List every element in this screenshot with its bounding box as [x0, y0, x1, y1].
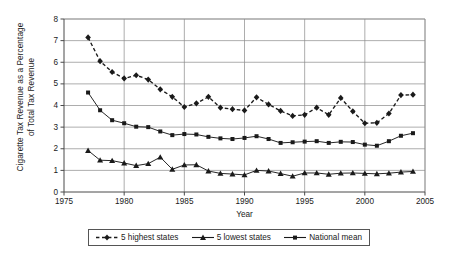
data-point-diamond	[109, 69, 115, 75]
data-point-square	[194, 132, 198, 136]
data-point-diamond	[350, 108, 356, 114]
data-point-square	[158, 129, 162, 133]
data-point-diamond	[230, 106, 236, 112]
data-point-triangle	[157, 154, 163, 159]
legend-label-highest: 5 highest states	[121, 233, 178, 242]
legend-item-national-mean: National mean	[284, 233, 362, 242]
y-tick-label: 0	[42, 188, 58, 197]
data-point-square	[279, 141, 283, 145]
x-tick-label: 2000	[345, 197, 385, 206]
series-national-mean	[86, 91, 415, 148]
data-point-square	[243, 136, 247, 140]
data-point-square	[351, 140, 355, 144]
data-point-diamond	[410, 92, 416, 98]
data-point-square	[146, 125, 150, 129]
data-point-square	[267, 137, 271, 141]
data-point-square	[387, 139, 391, 143]
data-point-diamond	[302, 112, 308, 118]
data-point-square	[363, 143, 367, 147]
data-point-square	[86, 91, 90, 95]
data-point-diamond	[121, 75, 127, 81]
data-point-square	[182, 132, 186, 136]
data-point-square	[399, 134, 403, 138]
data-point-diamond	[97, 58, 103, 64]
data-point-square	[303, 140, 307, 144]
x-tick-label: 1975	[44, 197, 84, 206]
data-point-diamond	[278, 108, 284, 114]
x-tick-label: 2005	[405, 197, 445, 206]
chart-legend: 5 highest states 5 lowest states Nationa…	[88, 229, 370, 246]
y-axis-title: Cigarette Tax Revenue as a Percentage of…	[15, 0, 37, 195]
data-point-diamond	[338, 95, 344, 101]
data-point-diamond	[157, 86, 163, 92]
data-point-diamond	[242, 107, 248, 113]
data-point-square	[218, 136, 222, 140]
data-point-square	[411, 131, 415, 135]
y-tick-label: 3	[42, 123, 58, 132]
data-point-square	[339, 140, 343, 144]
data-point-diamond	[85, 34, 91, 40]
y-tick-label: 5	[42, 79, 58, 88]
data-point-square	[255, 134, 259, 138]
series-line	[88, 37, 413, 123]
legend-item-lowest: 5 lowest states	[192, 233, 271, 242]
data-point-diamond	[182, 104, 188, 110]
x-tick-label: 1990	[225, 197, 265, 206]
data-point-diamond	[254, 94, 260, 100]
y-tick-label: 2	[42, 144, 58, 153]
data-point-square	[230, 137, 234, 141]
legend-label-national-mean: National mean	[309, 233, 362, 242]
data-point-diamond	[266, 101, 272, 107]
y-tick-label: 4	[42, 101, 58, 110]
y-axis-title-text: Cigarette Tax Revenue as a Percentage of…	[16, 23, 36, 172]
data-point-square	[315, 139, 319, 143]
legend-marker-diamond-dashed-icon	[96, 233, 118, 242]
legend-marker-square-solid-icon	[284, 233, 306, 242]
series-5-highest-states	[85, 34, 416, 126]
y-tick-label: 1	[42, 166, 58, 175]
legend-marker-triangle-solid-icon	[192, 233, 214, 242]
data-point-square	[375, 144, 379, 148]
plot-canvas	[0, 0, 457, 258]
data-point-square	[134, 125, 138, 129]
data-point-square	[291, 140, 295, 144]
x-axis-title: Year	[64, 210, 425, 219]
y-tick-label: 6	[42, 58, 58, 67]
legend-label-lowest: 5 lowest states	[217, 233, 271, 242]
data-point-diamond	[290, 113, 296, 119]
data-point-triangle	[145, 161, 151, 166]
data-point-square	[110, 118, 114, 122]
data-point-diamond	[133, 72, 139, 78]
data-point-square	[327, 141, 331, 145]
series-line	[88, 93, 413, 146]
y-tick-label: 8	[42, 15, 58, 24]
data-point-square	[98, 108, 102, 112]
y-tick-label: 7	[42, 36, 58, 45]
data-point-square	[206, 135, 210, 139]
chart-figure: Cigarette Tax Revenue as a Percentage of…	[0, 0, 457, 258]
data-point-diamond	[398, 92, 404, 98]
x-axis-title-text: Year	[236, 210, 253, 219]
legend-item-highest: 5 highest states	[96, 233, 178, 242]
data-point-triangle	[85, 147, 91, 152]
x-tick-label: 1985	[164, 197, 204, 206]
series-5-lowest-states	[85, 147, 416, 178]
x-tick-label: 1995	[285, 197, 325, 206]
x-tick-label: 1980	[104, 197, 144, 206]
data-point-square	[122, 121, 126, 125]
data-point-square	[170, 133, 174, 137]
